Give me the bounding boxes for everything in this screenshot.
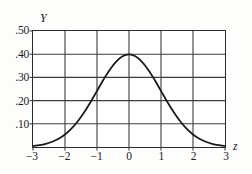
y-tick-label: .30: [15, 72, 29, 84]
x-tick-label: 3: [223, 151, 229, 163]
normal-curve: [33, 31, 225, 147]
normal-distribution-figure: Y .50 .40 .30 .20 .10 −3 −2 −1 0 1 2 3 z: [0, 0, 252, 174]
x-tick-label: 2: [191, 151, 197, 163]
x-tick-label: 0: [126, 151, 132, 163]
y-tick-label: .20: [15, 96, 29, 108]
x-axis-tick-labels: −3 −2 −1 0 1 2 3: [0, 151, 252, 171]
x-tick-label: −2: [58, 151, 70, 163]
y-tick-label: .40: [15, 49, 29, 61]
x-tick-label: −1: [91, 151, 103, 163]
y-tick-label: .10: [15, 119, 29, 131]
plot-area: [32, 30, 226, 148]
y-axis-tick-labels: .50 .40 .30 .20 .10: [0, 0, 29, 174]
x-axis-title: z: [233, 141, 237, 153]
x-tick-label: 1: [158, 151, 164, 163]
x-tick-label: −3: [26, 151, 38, 163]
y-tick-label: .50: [15, 25, 29, 37]
y-axis-title: Y: [40, 12, 47, 24]
